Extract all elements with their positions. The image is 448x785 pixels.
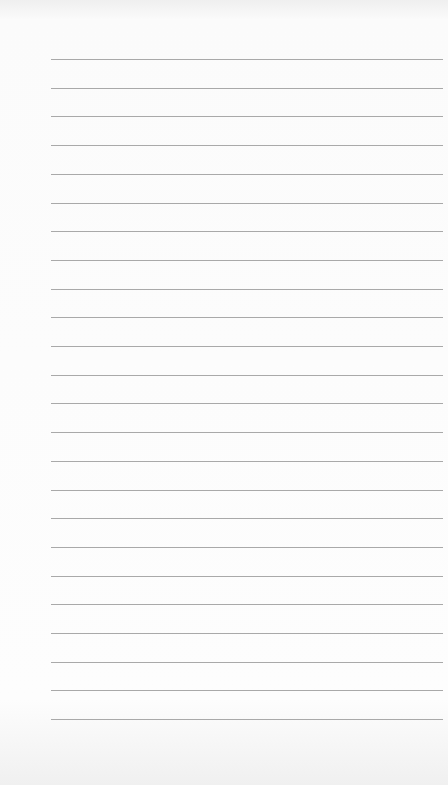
ruled-line	[51, 174, 443, 175]
ruled-line	[51, 432, 443, 433]
ruled-line	[51, 576, 443, 577]
ruled-line	[51, 461, 443, 462]
ruled-line	[51, 719, 443, 720]
ruled-line	[51, 116, 443, 117]
ruled-line	[51, 547, 443, 548]
ruled-line	[51, 317, 443, 318]
ruled-line	[51, 604, 443, 605]
ruled-line	[51, 289, 443, 290]
ruled-line	[51, 662, 443, 663]
ruled-line	[51, 375, 443, 376]
ruled-line	[51, 59, 443, 60]
ruled-line	[51, 403, 443, 404]
lined-paper-page	[0, 0, 448, 785]
ruled-line	[51, 88, 443, 89]
ruled-line	[51, 346, 443, 347]
ruled-line	[51, 490, 443, 491]
ruled-line	[51, 145, 443, 146]
ruled-line	[51, 690, 443, 691]
ruled-line	[51, 633, 443, 634]
ruled-line	[51, 231, 443, 232]
ruled-line	[51, 203, 443, 204]
ruled-line	[51, 518, 443, 519]
ruled-line	[51, 260, 443, 261]
